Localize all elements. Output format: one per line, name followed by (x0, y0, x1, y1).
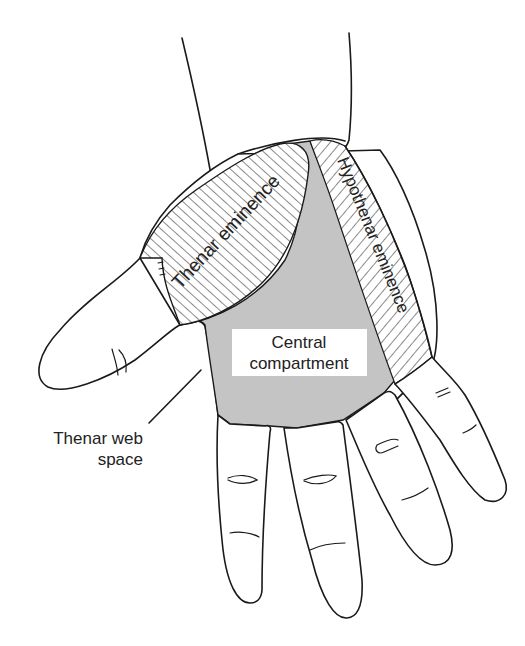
central-label-line1: Central (272, 333, 327, 352)
web-label-line1: Thenar web (53, 429, 143, 448)
central-compartment-label: Central compartment (232, 329, 367, 376)
forearm-left-edge (182, 38, 211, 175)
central-label-line2: compartment (249, 354, 348, 373)
web-label-line2: space (98, 450, 143, 469)
forearm-right-edge (340, 33, 351, 152)
thenar-web-leader-line (149, 370, 201, 423)
thenar-web-space-label: Thenar web space (53, 429, 143, 469)
index-finger (217, 415, 270, 603)
middle-finger (284, 422, 362, 618)
hand-compartments-diagram: Thenar eminence Hypothenar eminence Cent… (0, 0, 525, 646)
